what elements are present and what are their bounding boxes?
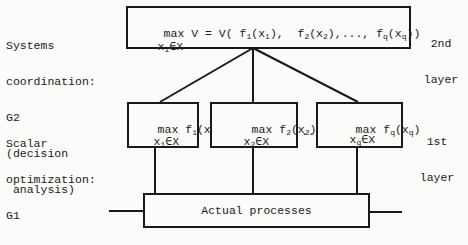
optimization-box-2: max f2(x2) x2∈X [210, 102, 298, 148]
constraint-2: x2∈X [216, 124, 269, 163]
constraint-q: xq∈X [322, 122, 375, 161]
coordination-box: max V = V( f1(x1), f2(x2),..., fq(xq)) x… [126, 6, 411, 49]
coordination-constraint: xi∈X [130, 29, 183, 68]
ellipsis: .. [301, 126, 315, 138]
optimization-box-1: max f1(x1) x1∈X [127, 102, 199, 148]
actual-processes-box: Actual processes [143, 193, 370, 228]
label-scalar-optimization: Scalar optimization: G1 (mathematical pr… [6, 114, 96, 245]
constraint-1: x1∈X [126, 124, 179, 163]
actual-processes-label: Actual processes [145, 205, 368, 217]
label-1st-layer: 1st layer [417, 112, 457, 196]
label-2nd-layer: 2nd layer [421, 14, 461, 98]
optimization-box-q: max fq(xq) xq∈X [316, 102, 403, 148]
